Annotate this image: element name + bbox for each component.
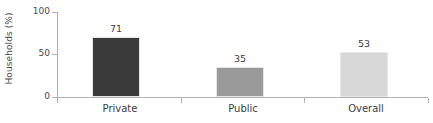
bar-value-public: 35 (216, 54, 264, 64)
x-axis-tick-mark (428, 98, 429, 103)
x-axis-category-label-private: Private (58, 104, 182, 114)
x-axis-tick-mark (57, 98, 58, 103)
bar-public[interactable] (216, 67, 264, 97)
bar-overall[interactable] (340, 52, 388, 97)
plot-area: 71 35 53 (58, 12, 428, 97)
y-axis-tick-label-text: 0 (4, 92, 50, 101)
bar-value-private: 71 (92, 24, 140, 34)
bar-value-overall: 53 (340, 39, 388, 49)
bar-private[interactable] (92, 37, 140, 97)
y-axis-tick-label-0: 0 (0, 92, 50, 102)
x-axis-category-label-overall: Overall (304, 104, 428, 114)
bar-group-private: 71 (92, 12, 140, 97)
bar-group-public: 35 (216, 12, 264, 97)
bar-group-overall: 53 (340, 12, 388, 97)
x-axis-tick-mark (304, 98, 305, 103)
y-axis-tick-mark (52, 12, 57, 13)
y-axis-tick-label-100: 100 (0, 7, 50, 17)
bar-chart: Households (%) 100 50 0 71 35 53 Private (0, 0, 433, 123)
y-axis-tick-mark (52, 54, 57, 55)
x-axis-tick-mark (181, 98, 182, 103)
y-axis-tick-label-50: 50 (0, 49, 50, 59)
x-axis-line (57, 97, 428, 98)
x-axis-category-label-public: Public (181, 104, 305, 114)
y-axis-tick-label-text: 100 (4, 7, 50, 16)
y-axis-tick-label-text: 50 (4, 49, 50, 58)
